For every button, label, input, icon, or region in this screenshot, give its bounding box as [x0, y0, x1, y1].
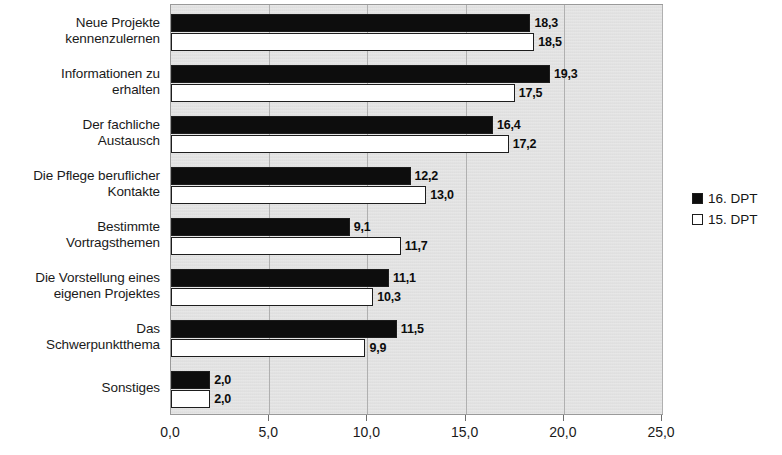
bar-1: [171, 135, 509, 153]
bar-0: [171, 320, 397, 338]
x-axis-tick-label: 10,0: [353, 424, 380, 440]
bar-0: [171, 218, 350, 236]
bar-group: 11,110,3: [171, 269, 662, 307]
bar-value-label: 9,1: [354, 218, 371, 236]
category-label-line: Die Vorstellung eines: [0, 270, 160, 286]
bar-0: [171, 116, 493, 134]
bar-1: [171, 339, 365, 357]
category-label-line: Sonstiges: [0, 380, 160, 396]
bar-value-label: 18,5: [538, 33, 562, 51]
bar-value-label: 2,0: [214, 390, 231, 408]
category-label: Informationen zuerhalten: [0, 66, 160, 98]
bar-value-label: 19,3: [554, 65, 578, 83]
bar-value-label: 16,4: [497, 116, 521, 134]
x-axis-labels: 0,05,010,015,020,025,0: [170, 424, 663, 446]
x-axis-tick-mark: [268, 415, 269, 421]
plot-area: 18,318,519,317,516,417,212,213,09,111,71…: [170, 4, 663, 415]
x-axis-tick-label: 5,0: [258, 424, 277, 440]
bar-value-label: 18,3: [534, 14, 558, 32]
bar-0: [171, 269, 389, 287]
legend-swatch-icon: [692, 193, 703, 204]
bar-group: 19,317,5: [171, 65, 662, 103]
bar-1: [171, 186, 426, 204]
category-label-line: Das: [0, 321, 160, 337]
category-label-line: erhalten: [0, 82, 160, 98]
bar-group: 18,318,5: [171, 14, 662, 52]
category-label-line: Der fachliche: [0, 117, 160, 133]
category-label-line: Austausch: [0, 133, 160, 149]
bar-1: [171, 390, 210, 408]
category-label: Der fachlicheAustausch: [0, 117, 160, 149]
bar-1: [171, 33, 534, 51]
bar-value-label: 17,2: [513, 135, 537, 153]
bar-value-label: 11,1: [393, 269, 416, 287]
bar-group: 12,213,0: [171, 167, 662, 205]
bar-value-label: 10,3: [377, 288, 401, 306]
x-axis-tick-mark: [563, 415, 564, 421]
category-label-line: Informationen zu: [0, 66, 160, 82]
gridline: [662, 5, 663, 414]
bar-1: [171, 237, 401, 255]
category-label-line: Schwerpunktthema: [0, 337, 160, 353]
bar-value-label: 13,0: [430, 186, 454, 204]
bar-group: 2,02,0: [171, 371, 662, 409]
x-axis-tick-label: 15,0: [451, 424, 478, 440]
bar-1: [171, 84, 515, 102]
category-label-line: Bestimmte: [0, 219, 160, 235]
bar-group: 16,417,2: [171, 116, 662, 154]
bar-chart: Neue ProjektekennenzulernenInformationen…: [0, 0, 782, 455]
category-label-line: Kontakte: [0, 184, 160, 200]
legend-item: 16. DPT: [692, 188, 778, 209]
category-label: Die Vorstellung eineseigenen Projektes: [0, 270, 160, 302]
bar-group: 11,59,9: [171, 320, 662, 358]
legend-label: 15. DPT: [708, 212, 758, 227]
category-label: BestimmteVortragsthemen: [0, 219, 160, 251]
category-label-line: eigenen Projektes: [0, 286, 160, 302]
category-label: DasSchwerpunktthema: [0, 321, 160, 353]
x-axis-tick-label: 25,0: [647, 424, 674, 440]
legend-label: 16. DPT: [708, 191, 758, 206]
bar-value-label: 2,0: [214, 371, 231, 389]
legend-swatch-icon: [692, 214, 703, 225]
category-label-line: Die Pflege beruflicher: [0, 168, 160, 184]
x-axis-tick-label: 0,0: [160, 424, 179, 440]
bar-value-label: 11,7: [405, 237, 428, 255]
bar-group: 9,111,7: [171, 218, 662, 256]
chart-legend: 16. DPT15. DPT: [692, 188, 778, 230]
legend-item: 15. DPT: [692, 209, 778, 230]
bar-value-label: 12,2: [415, 167, 439, 185]
bar-value-label: 11,5: [401, 320, 424, 338]
category-label-line: Neue Projekte: [0, 15, 160, 31]
bar-value-label: 17,5: [519, 84, 543, 102]
category-label: Die Pflege beruflicherKontakte: [0, 168, 160, 200]
category-label-line: Vortragsthemen: [0, 235, 160, 251]
x-axis-tick-label: 20,0: [549, 424, 576, 440]
x-axis-tick-mark: [366, 415, 367, 421]
category-axis-labels: Neue ProjektekennenzulernenInformationen…: [0, 0, 166, 415]
x-axis-tick-mark: [465, 415, 466, 421]
category-label: Neue Projektekennenzulernen: [0, 15, 160, 47]
bar-0: [171, 65, 550, 83]
bar-value-label: 9,9: [369, 339, 386, 357]
bar-0: [171, 167, 411, 185]
bar-0: [171, 371, 210, 389]
bar-1: [171, 288, 373, 306]
category-label-line: kennenzulernen: [0, 31, 160, 47]
bar-0: [171, 14, 530, 32]
category-label: Sonstiges: [0, 380, 160, 396]
x-axis-tick-mark: [661, 415, 662, 421]
